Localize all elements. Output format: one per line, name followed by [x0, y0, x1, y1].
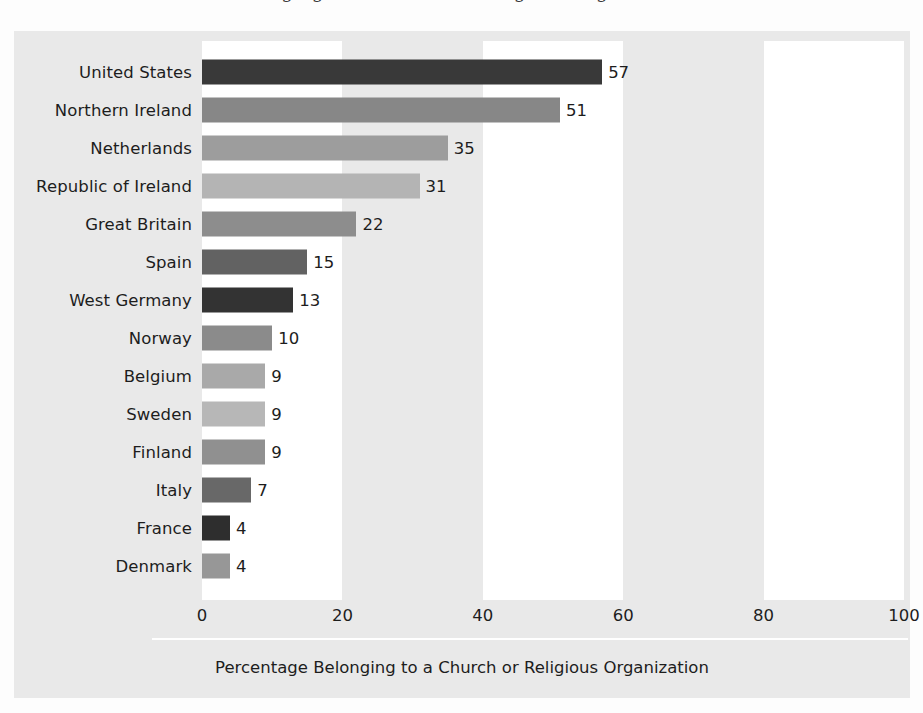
- bar: [202, 554, 230, 579]
- bar: [202, 174, 420, 199]
- bar: [202, 326, 272, 351]
- category-label: Sweden: [126, 405, 192, 424]
- category-label: United States: [79, 63, 192, 82]
- bar-row: Belgium9: [202, 357, 904, 395]
- bar-value-label: 4: [236, 557, 247, 576]
- bar: [202, 516, 230, 541]
- bar: [202, 478, 251, 503]
- page-background: Belonging to a Church or Religious Organ…: [0, 0, 923, 713]
- category-label: Great Britain: [85, 215, 192, 234]
- category-label: Northern Ireland: [55, 101, 192, 120]
- bar-value-label: 9: [271, 443, 282, 462]
- bar-row: West Germany13: [202, 281, 904, 319]
- bar-row: Finland9: [202, 433, 904, 471]
- category-label: Spain: [145, 253, 192, 272]
- bar-row: Great Britain22: [202, 205, 904, 243]
- category-label: Finland: [132, 443, 192, 462]
- bar-value-label: 9: [271, 367, 282, 386]
- axis-separator-rule: [152, 638, 908, 640]
- bar: [202, 440, 265, 465]
- bar-row: Italy7: [202, 471, 904, 509]
- bar-value-label: 4: [236, 519, 247, 538]
- category-label: Republic of Ireland: [36, 177, 192, 196]
- x-tick-label: 20: [332, 606, 353, 625]
- bar-value-label: 22: [362, 215, 383, 234]
- category-label: Italy: [156, 481, 192, 500]
- chart-panel: United States57Northern Ireland51Netherl…: [14, 31, 910, 698]
- bar-value-label: 10: [278, 329, 299, 348]
- bar-value-label: 7: [257, 481, 268, 500]
- bar: [202, 288, 293, 313]
- bar-value-label: 13: [299, 291, 320, 310]
- bar: [202, 402, 265, 427]
- plot-area: United States57Northern Ireland51Netherl…: [202, 41, 904, 600]
- category-label: Denmark: [115, 557, 192, 576]
- x-tick-label: 80: [753, 606, 774, 625]
- bar-value-label: 31: [426, 177, 447, 196]
- bar-row: United States57: [202, 53, 904, 91]
- bar-row: France4: [202, 509, 904, 547]
- bar-row: Denmark4: [202, 547, 904, 585]
- x-tick-label: 100: [888, 606, 920, 625]
- bar: [202, 364, 265, 389]
- bar-row: Netherlands35: [202, 129, 904, 167]
- bar-value-label: 35: [454, 139, 475, 158]
- category-label: West Germany: [69, 291, 192, 310]
- x-tick-label: 40: [472, 606, 493, 625]
- x-tick-label: 60: [613, 606, 634, 625]
- x-tick-label: 0: [197, 606, 208, 625]
- category-label: Norway: [129, 329, 192, 348]
- bar: [202, 136, 448, 161]
- bar-value-label: 9: [271, 405, 282, 424]
- category-label: France: [137, 519, 192, 538]
- x-axis-title: Percentage Belonging to a Church or Reli…: [14, 658, 910, 677]
- bar: [202, 60, 602, 85]
- bar-value-label: 51: [566, 101, 587, 120]
- clipped-heading-region: Belonging to a Church or Religious Organ…: [0, 0, 923, 16]
- bar-row: Sweden9: [202, 395, 904, 433]
- x-axis-tick-labels: 020406080100: [202, 606, 904, 636]
- bar: [202, 250, 307, 275]
- clipped-heading-text: Belonging to a Church or Religious Organ…: [0, 0, 923, 2]
- bar: [202, 98, 560, 123]
- category-label: Belgium: [124, 367, 192, 386]
- bar-row: Norway10: [202, 319, 904, 357]
- bar-row: Northern Ireland51: [202, 91, 904, 129]
- bar-row: Republic of Ireland31: [202, 167, 904, 205]
- bar-row: Spain15: [202, 243, 904, 281]
- bar: [202, 212, 356, 237]
- category-label: Netherlands: [90, 139, 192, 158]
- bar-value-label: 57: [608, 63, 629, 82]
- bar-value-label: 15: [313, 253, 334, 272]
